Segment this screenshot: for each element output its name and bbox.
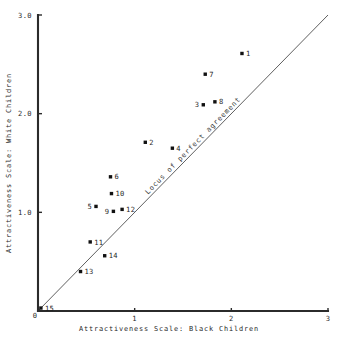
point-label: 13 <box>85 267 94 276</box>
point-marker <box>120 208 123 211</box>
x-axis-title: Attractiveness Scale: Black Children <box>79 325 259 333</box>
point-label: 12 <box>126 205 135 214</box>
point-label: 10 <box>115 189 124 198</box>
data-point: 12 <box>120 205 135 214</box>
y-tick-label: 2.0 <box>18 109 32 118</box>
point-marker <box>109 175 112 178</box>
y-axis-title: Attractiveness Scale: White Children <box>5 73 13 253</box>
point-label: 11 <box>94 238 103 247</box>
data-point: 10 <box>110 189 125 198</box>
point-label: 8 <box>219 97 224 106</box>
x-tick-label: 3 <box>326 314 331 323</box>
y-tick-label: 3.0 <box>18 11 32 20</box>
data-point: 3 <box>195 100 205 109</box>
point-marker <box>144 141 147 144</box>
data-points-group: 178324610512911141315 <box>39 49 250 313</box>
plot-canvas: 0123 1.02.03.0 178324610512911141315 Loc… <box>0 0 338 341</box>
point-marker <box>94 205 97 208</box>
reference-line-group <box>38 15 328 311</box>
point-marker <box>213 100 216 103</box>
data-point: 7 <box>204 70 214 79</box>
x-tick-label: 0 <box>33 311 38 320</box>
data-point: 11 <box>89 238 104 247</box>
data-point: 4 <box>171 144 181 153</box>
point-label: 1 <box>246 49 251 58</box>
point-marker <box>171 147 174 150</box>
point-marker <box>89 240 92 243</box>
point-marker <box>39 306 42 309</box>
diagonal-caption-group: Locus of perfect agreement <box>144 95 243 196</box>
data-point: 1 <box>240 49 250 58</box>
point-label: 5 <box>87 202 92 211</box>
point-label: 14 <box>109 251 118 260</box>
data-point: 9 <box>105 207 115 216</box>
y-tick-label: 1.0 <box>18 208 32 217</box>
point-label: 4 <box>176 144 181 153</box>
point-marker <box>103 254 106 257</box>
point-marker <box>240 52 243 55</box>
point-label: 6 <box>115 172 120 181</box>
data-point: 6 <box>109 172 119 181</box>
point-label: 9 <box>105 207 110 216</box>
point-marker <box>79 270 82 273</box>
point-marker <box>110 192 113 195</box>
data-point: 5 <box>87 202 97 211</box>
point-label: 15 <box>45 304 54 313</box>
scatter-plot-figure: 0123 1.02.03.0 178324610512911141315 Loc… <box>0 0 338 341</box>
point-label: 7 <box>209 70 214 79</box>
identity-line <box>38 15 328 311</box>
point-marker <box>112 210 115 213</box>
data-point: 8 <box>213 97 223 106</box>
x-tick-label: 1 <box>132 314 137 323</box>
point-marker <box>204 73 207 76</box>
data-point: 13 <box>79 267 94 276</box>
point-marker <box>202 103 205 106</box>
data-point: 2 <box>144 138 154 147</box>
x-tick-label: 2 <box>229 314 234 323</box>
locus-of-perfect-agreement-label: Locus of perfect agreement <box>144 95 243 196</box>
point-label: 3 <box>195 100 200 109</box>
data-point: 14 <box>103 251 118 260</box>
point-label: 2 <box>149 138 154 147</box>
